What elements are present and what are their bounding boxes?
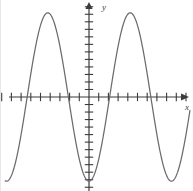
y-axis-label: y <box>101 2 106 12</box>
x-axis-label: x <box>184 102 189 112</box>
x-axis-group <box>2 93 189 101</box>
graph-screenshot: y x <box>0 0 193 191</box>
y-axis-arrow-head <box>85 2 92 9</box>
trig-function-plot: y x <box>1 0 193 191</box>
x-axis-arrow-head <box>181 93 189 100</box>
